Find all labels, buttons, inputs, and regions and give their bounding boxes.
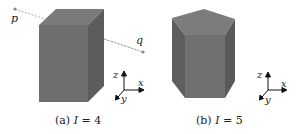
point-q (141, 50, 144, 53)
box-side-face (88, 9, 104, 102)
axis-label-y-b: y (264, 94, 271, 105)
label-p: p (11, 12, 18, 25)
axis-label-x-b: x (281, 78, 287, 89)
axis-label-z-b: z (256, 69, 263, 80)
axis-label-x: x (138, 77, 144, 88)
point-p (13, 7, 16, 10)
caption-a: (a) I = 4 (55, 114, 101, 127)
caption-b: (b) I = 5 (196, 114, 243, 127)
panel-a: p q z x y (a) I = 4 (11, 7, 145, 127)
axis-label-z: z (112, 69, 119, 80)
label-q: q (136, 34, 143, 47)
box-front-face (39, 25, 88, 102)
figure: p q z x y (a) I = 4 z x (0, 0, 301, 134)
axis-label-y: y (120, 93, 127, 104)
panel-b: z x y (b) I = 5 (172, 9, 287, 127)
prism-front-face (185, 35, 225, 98)
